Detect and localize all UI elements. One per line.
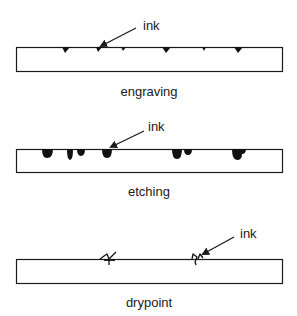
drypoint-ink-arrow: [203, 237, 234, 254]
etching-ink-arrow: [111, 131, 144, 147]
etching-ink-label: ink: [148, 119, 165, 134]
engraving-ink-arrow: [101, 28, 136, 46]
engraving-plate: [17, 48, 283, 72]
printmaking-diagram: ink engraving ink etching ink: [0, 0, 297, 316]
drypoint-caption: drypoint: [126, 295, 173, 310]
etching-caption: etching: [128, 184, 170, 199]
drypoint-plate: [17, 260, 283, 284]
engraving-ink-label: ink: [143, 18, 160, 33]
engraving-caption: engraving: [120, 84, 177, 99]
engraving-panel: ink engraving: [17, 18, 283, 99]
drypoint-panel: ink drypoint: [17, 226, 283, 310]
etching-panel: ink etching: [17, 119, 283, 199]
drypoint-ink-label: ink: [240, 226, 257, 241]
